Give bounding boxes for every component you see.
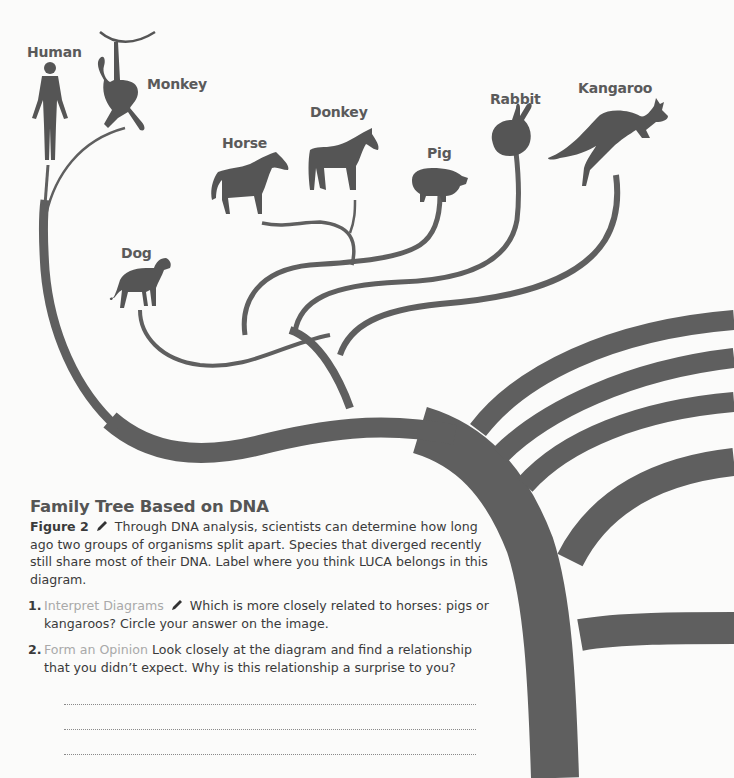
kangaroo-silhouette bbox=[548, 98, 668, 186]
rabbit-silhouette bbox=[492, 103, 532, 156]
taxon-label-pig: Pig bbox=[427, 145, 451, 161]
question-1: 1. Interpret Diagrams Which is more clos… bbox=[30, 597, 500, 632]
answer-line-2[interactable] bbox=[64, 705, 476, 730]
dog-silhouette bbox=[110, 258, 171, 308]
taxon-label-rabbit: Rabbit bbox=[490, 91, 541, 107]
arc-band-4 bbox=[570, 462, 734, 560]
figure-caption: Family Tree Based on DNA Figure 2 Throug… bbox=[30, 497, 500, 755]
question-skill: Form an Opinion bbox=[44, 642, 148, 657]
question-skill: Interpret Diagrams bbox=[44, 598, 164, 613]
taxon-label-monkey: Monkey bbox=[147, 76, 207, 92]
taxon-label-horse: Horse bbox=[222, 135, 267, 151]
donkey-branch bbox=[350, 200, 355, 233]
donkey-silhouette bbox=[309, 128, 379, 190]
ungulate-branch bbox=[244, 195, 440, 335]
main-branch bbox=[110, 420, 455, 453]
question-number: 1. bbox=[28, 597, 42, 615]
taxon-label-donkey: Donkey bbox=[310, 104, 368, 120]
answer-line-1[interactable] bbox=[64, 680, 476, 705]
monkey-branch bbox=[46, 128, 125, 215]
taxon-label-dog: Dog bbox=[121, 245, 152, 261]
question-2: 2. Form an Opinion Look closely at the d… bbox=[30, 641, 500, 676]
pencil-icon bbox=[171, 599, 183, 611]
answer-line-3[interactable] bbox=[64, 730, 476, 755]
rabbit-branch bbox=[295, 152, 519, 332]
pencil-icon bbox=[96, 520, 108, 532]
figure-description: Figure 2 Through DNA analysis, scientist… bbox=[30, 518, 500, 588]
human-silhouette bbox=[32, 62, 68, 160]
figure-title: Family Tree Based on DNA bbox=[30, 497, 500, 516]
human-branch bbox=[45, 165, 48, 205]
taxon-label-kangaroo: Kangaroo bbox=[578, 80, 652, 96]
taxon-label-human: Human bbox=[27, 44, 82, 60]
primate-branch bbox=[44, 200, 119, 428]
equid-branch bbox=[262, 222, 354, 265]
figure-number: Figure 2 bbox=[30, 519, 89, 534]
question-number: 2. bbox=[28, 641, 42, 659]
horse-silhouette bbox=[211, 152, 288, 214]
arc-band-5 bbox=[580, 628, 734, 635]
